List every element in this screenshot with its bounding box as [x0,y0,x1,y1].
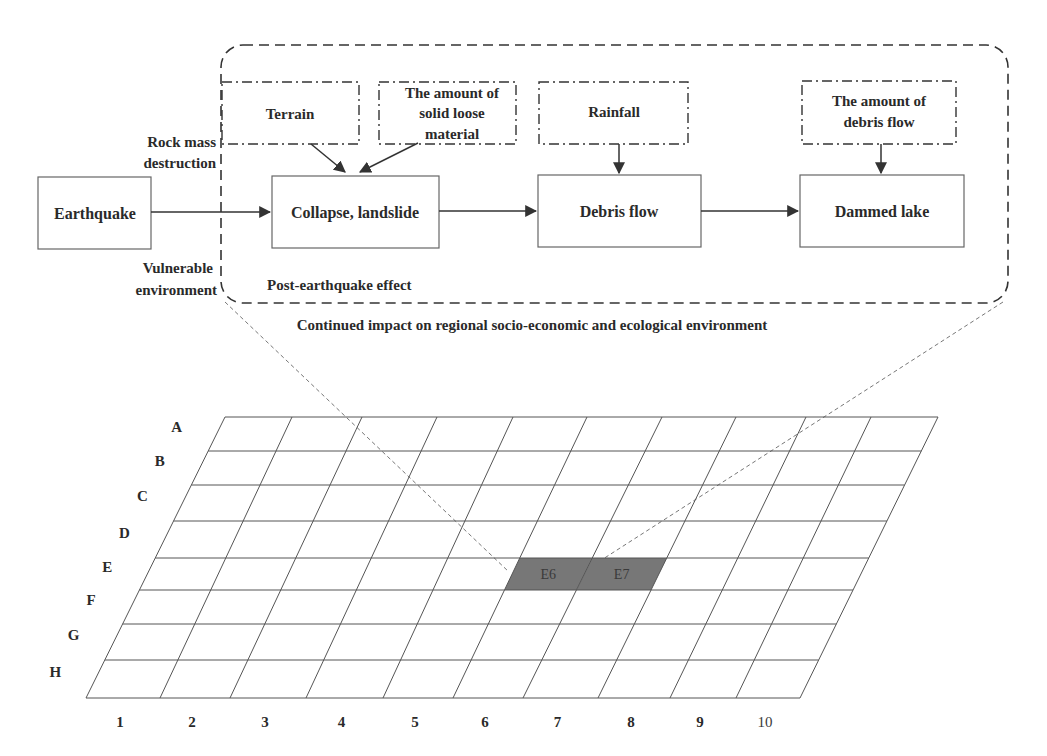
process-label-dammed-lake: Dammed lake [835,203,930,220]
col-label-3: 3 [261,714,269,730]
grid-row-labels: ABCDEFGH [50,419,183,680]
row-label-d: D [119,525,130,541]
post-earthquake-effect-label: Post-earthquake effect [267,277,412,293]
row-label-b: B [155,453,165,469]
process-box-debris-flow: Debris flow [538,175,701,247]
factor-label-terrain: Terrain [266,106,315,122]
row-label-h: H [50,664,62,680]
side-label-vulnerable: Vulnerable environment [136,260,217,298]
col-label-2: 2 [188,714,196,730]
col-label-10: 10 [758,714,773,730]
grid-lines [86,417,938,698]
factor-label-loose-1: The amount of [405,85,500,101]
col-label-4: 4 [338,714,346,730]
col-label-1: 1 [116,714,124,730]
process-label-collapse: Collapse, landslide [291,204,419,222]
side-label-vulnerable-2: environment [136,282,217,298]
post-earthquake-effect-container [221,45,1008,303]
factor-label-debris-amount-2: debris flow [843,114,914,130]
factor-box-loose-material: The amount of solid loose material [379,82,516,144]
projection-lines [225,302,1003,572]
factor-box-rainfall: Rainfall [539,82,688,144]
row-label-g: G [68,627,80,643]
factor-box-terrain: Terrain [222,82,359,144]
process-box-earthquake: Earthquake [38,177,151,249]
diagram-canvas: Terrain The amount of solid loose materi… [0,0,1047,756]
factor-label-debris-amount-1: The amount of [832,93,927,109]
cell-label-e6: E6 [540,567,556,582]
factor-label-rainfall: Rainfall [588,104,640,120]
factor-label-loose-2: solid loose [419,105,485,121]
side-label-rock-mass-2: destruction [144,155,217,171]
process-box-dammed-lake: Dammed lake [800,175,964,247]
process-label-earthquake: Earthquake [54,205,136,223]
grid-highlight-layer [505,558,667,590]
col-label-7: 7 [554,714,562,730]
side-label-vulnerable-1: Vulnerable [143,260,214,276]
factor-box-debris-amount-frame [802,81,956,144]
projection-line-left [225,302,509,572]
factor-box-debris-amount: The amount of debris flow [802,81,956,144]
cell-label-e7: E7 [614,567,630,582]
arrow-terrain-to-collapse [311,144,345,172]
process-box-collapse: Collapse, landslide [272,176,439,248]
col-label-6: 6 [481,714,489,730]
factor-arrows [311,143,881,173]
grid-col-labels: 12345678910 [116,714,772,730]
side-label-rock-mass: Rock mass destruction [144,134,217,171]
process-label-debris-flow: Debris flow [580,203,659,220]
row-label-a: A [171,419,182,435]
factor-label-loose-3: material [425,126,479,142]
col-label-8: 8 [627,714,635,730]
row-label-f: F [86,592,95,608]
row-label-e: E [102,559,112,575]
row-label-c: C [137,488,148,504]
col-label-5: 5 [411,714,419,730]
projection-line-right [603,302,1003,559]
continued-impact-caption: Continued impact on regional socio-econo… [297,317,768,333]
col-label-9: 9 [696,714,704,730]
outer-dashed-box [221,45,1008,303]
side-label-rock-mass-1: Rock mass [147,134,216,150]
arrow-loose-to-collapse [360,143,418,172]
